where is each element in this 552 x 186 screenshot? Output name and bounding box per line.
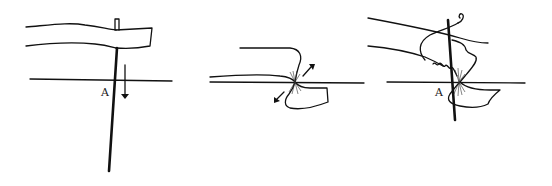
down-arrow-head: [121, 94, 129, 99]
strip-top-edge: [26, 24, 116, 30]
arrow-up-right-shaft: [303, 67, 311, 76]
arrow-down-left-head: [274, 97, 280, 103]
baseline: [210, 82, 364, 83]
panel-2: [210, 48, 364, 109]
thread-upper-loop: [240, 48, 301, 82]
needle-shaft: [109, 48, 117, 171]
stitch-diagram: A A: [0, 0, 552, 186]
fabric-lower-piece: [448, 82, 500, 107]
fabric-upper-piece: [452, 40, 476, 82]
baseline: [30, 79, 172, 81]
strip-bottom-edge: [26, 43, 116, 48]
needle-eye: [115, 19, 119, 30]
fabric-lower-piece: [285, 82, 328, 109]
arrow-down-left-shaft: [277, 92, 284, 99]
baseline: [387, 82, 525, 83]
stitch-wave: [433, 63, 457, 76]
thread-lower: [210, 75, 295, 82]
point-label-a: A: [434, 86, 444, 99]
thread-loop: [420, 23, 458, 60]
thread-curl: [458, 14, 463, 23]
thread-second: [368, 46, 443, 66]
panel-1: A: [26, 19, 172, 171]
thread-top: [368, 18, 488, 43]
panel-3: A: [368, 14, 525, 120]
point-label-a: A: [100, 86, 110, 99]
strip-flap: [116, 28, 152, 48]
